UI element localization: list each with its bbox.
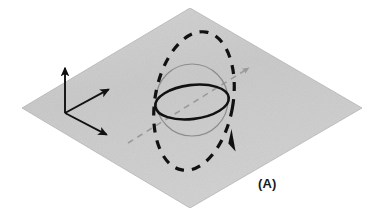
figure-canvas [0, 0, 383, 220]
figure-container: (A) [0, 0, 383, 220]
panel-label: (A) [258, 176, 277, 191]
